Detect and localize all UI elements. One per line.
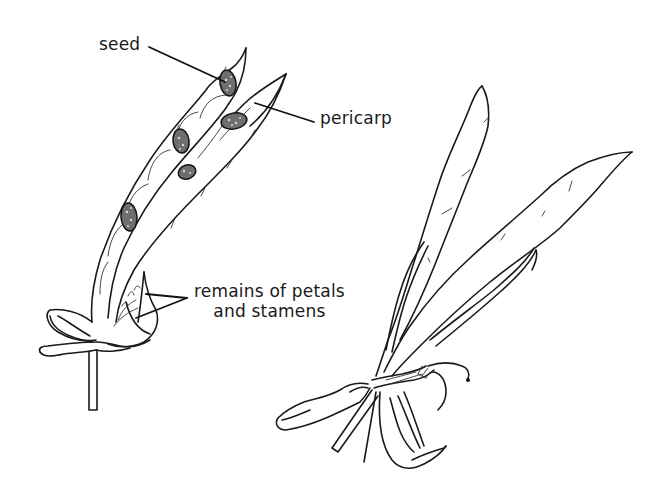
seed-4 <box>176 162 198 181</box>
remains-label-line-2: and stamens <box>194 301 345 321</box>
seed-leader-line <box>149 47 225 82</box>
pericarp-label: pericarp <box>320 108 392 128</box>
remains-label: remains of petals and stamens <box>194 281 345 321</box>
left-pod <box>39 48 286 410</box>
seed-1 <box>218 67 238 97</box>
remains-leader-line-top <box>146 294 187 298</box>
seed-2 <box>220 111 248 131</box>
remains-label-line-1: remains of petals <box>194 281 345 301</box>
seed-3 <box>171 125 190 154</box>
right-pod <box>276 86 632 468</box>
remains-leader-line-bottom <box>136 298 187 318</box>
seed-5 <box>120 202 138 231</box>
botanical-diagram <box>0 0 661 501</box>
seed-label: seed <box>99 34 140 54</box>
